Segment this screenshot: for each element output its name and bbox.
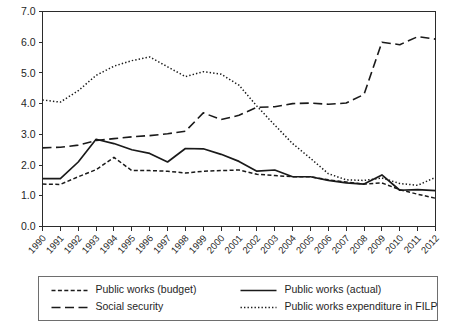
x-tick-label: 2000 xyxy=(204,232,226,255)
y-tick-label: 4.0 xyxy=(21,97,36,109)
plot-frame xyxy=(43,12,436,227)
line-chart: 0.01.02.03.04.05.06.07.0 199019911992199… xyxy=(0,0,451,331)
y-axis-ticks: 0.01.02.03.04.05.06.07.0 xyxy=(21,5,43,232)
x-tick-label: 2005 xyxy=(294,232,316,255)
legend-label-2: Social security xyxy=(96,300,164,312)
x-tick-label: 1991 xyxy=(44,232,66,255)
chart-canvas: 0.01.02.03.04.05.06.07.0 199019911992199… xyxy=(0,0,451,331)
x-tick-label: 2011 xyxy=(401,232,423,255)
y-tick-label: 7.0 xyxy=(21,5,36,17)
y-tick-label: 0.0 xyxy=(21,220,36,232)
x-tick-label: 1997 xyxy=(151,232,173,255)
x-tick-label: 2001 xyxy=(222,232,244,255)
x-tick-label: 2009 xyxy=(365,232,387,255)
series-line-2 xyxy=(43,37,436,148)
x-tick-label: 2004 xyxy=(276,232,298,255)
data-series-group xyxy=(43,37,436,199)
x-tick-label: 2006 xyxy=(311,232,333,255)
legend-label-0: Public works (budget) xyxy=(96,283,197,295)
x-tick-label: 1996 xyxy=(133,232,155,255)
x-tick-label: 2003 xyxy=(258,232,280,255)
x-tick-label: 1995 xyxy=(115,232,137,255)
plot-frame-border xyxy=(43,12,436,227)
y-tick-label: 3.0 xyxy=(21,128,36,140)
x-tick-label: 2007 xyxy=(329,232,351,255)
x-tick-label: 1999 xyxy=(186,232,208,255)
y-tick-label: 2.0 xyxy=(21,159,36,171)
x-axis-ticks: 1990199119921993199419951996199719981999… xyxy=(26,227,441,256)
x-tick-label: 1990 xyxy=(26,232,48,255)
chart-legend: Public works (budget)Public works (actua… xyxy=(39,277,438,321)
legend-label-3: Public works expenditure in FILP xyxy=(285,300,438,312)
x-tick-label: 1998 xyxy=(169,232,191,255)
y-tick-label: 5.0 xyxy=(21,67,36,79)
legend-label-1: Public works (actual) xyxy=(285,283,382,295)
x-tick-label: 2010 xyxy=(383,232,405,255)
y-tick-label: 6.0 xyxy=(21,36,36,48)
series-line-3 xyxy=(43,57,436,185)
x-tick-label: 2012 xyxy=(419,232,441,255)
x-tick-label: 1993 xyxy=(79,232,101,255)
x-tick-label: 1994 xyxy=(97,232,119,255)
y-tick-label: 1.0 xyxy=(21,189,36,201)
x-tick-label: 1992 xyxy=(61,232,83,255)
x-tick-label: 2002 xyxy=(240,232,262,255)
x-tick-label: 2008 xyxy=(347,232,369,255)
